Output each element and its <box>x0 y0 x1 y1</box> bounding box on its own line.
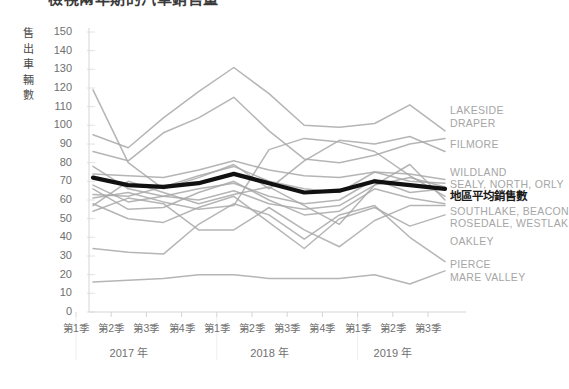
series-label: ROSEDALE, WESTLAK <box>450 217 568 229</box>
x-tick-label: 第2季 <box>91 320 131 335</box>
series-label-highlight: 地區平均銷售數 <box>450 190 527 202</box>
x-tick-label: 第3季 <box>267 320 307 335</box>
x-tick-label: 第3季 <box>126 320 166 335</box>
x-tick-label: 第2季 <box>232 320 272 335</box>
series-label: PIERCE <box>450 258 491 270</box>
series-label: LAKESIDE <box>450 104 504 116</box>
series-line <box>93 97 445 162</box>
year-group-label: 2019 年 <box>333 344 453 360</box>
x-tick-label: 第3季 <box>408 320 448 335</box>
x-tick-label: 第1季 <box>56 320 96 335</box>
series-label: DRAPER <box>450 117 496 129</box>
series-line <box>93 271 445 284</box>
series-label: FILMORE <box>450 138 499 150</box>
series-label: MARE VALLEY <box>450 271 525 283</box>
year-group-label: 2017 年 <box>69 344 189 360</box>
series-label: SOUTHLAKE, BEACON <box>450 205 569 217</box>
x-tick-label: 第1季 <box>197 320 237 335</box>
series-line <box>93 68 445 148</box>
series-label: OAKLEY <box>450 235 494 247</box>
series-label: SEALY, NORTH, ORLY <box>450 178 564 190</box>
series-label: WILDLAND <box>450 166 507 178</box>
x-tick-label: 第2季 <box>373 320 413 335</box>
x-tick-label: 第4季 <box>302 320 342 335</box>
x-tick-label: 第1季 <box>338 320 378 335</box>
x-tick-label: 第4季 <box>162 320 202 335</box>
year-group-label: 2018 年 <box>210 344 330 360</box>
chart-page: 檢視兩年期的汽車銷售量 售 出 車 輛 數 150140130120110100… <box>0 0 569 389</box>
